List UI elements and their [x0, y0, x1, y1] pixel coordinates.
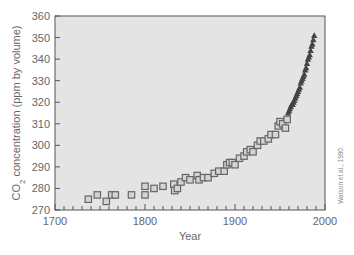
- square-marker: [174, 185, 180, 191]
- square-marker: [284, 116, 290, 122]
- source-credit: Watson et al., 1990.: [337, 146, 344, 204]
- y-tick-label: 320: [32, 96, 50, 108]
- x-axis-title: Year: [179, 230, 202, 242]
- square-marker: [128, 192, 134, 198]
- y-axis-title: CO2 concentration (ppm by volume): [10, 25, 27, 200]
- x-axis-tick-labels: 1700180019002000: [43, 215, 337, 227]
- y-tick-label: 340: [32, 53, 50, 65]
- square-marker: [221, 168, 227, 174]
- y-tick-label: 350: [32, 32, 50, 44]
- square-marker: [232, 162, 238, 168]
- y-tick-label: 330: [32, 75, 50, 87]
- y-tick-label: 360: [32, 10, 50, 22]
- y-tick-label: 280: [32, 182, 50, 194]
- square-marker: [282, 125, 288, 131]
- square-marker: [160, 183, 166, 189]
- co2-chart: 270280290300310320330340350360 170018001…: [0, 0, 354, 255]
- square-marker: [112, 192, 118, 198]
- square-marker: [103, 198, 109, 204]
- y-axis-title-post: concentration (ppm by volume): [10, 25, 22, 179]
- x-tick-label: 1900: [223, 215, 247, 227]
- y-tick-label: 290: [32, 161, 50, 173]
- x-tick-label: 1800: [133, 215, 157, 227]
- y-axis-title-pre: CO: [10, 184, 22, 201]
- square-marker: [187, 177, 193, 183]
- x-tick-label: 2000: [313, 215, 337, 227]
- square-marker: [85, 196, 91, 202]
- square-marker: [272, 131, 278, 137]
- square-marker: [205, 174, 211, 180]
- square-marker: [151, 185, 157, 191]
- square-marker: [142, 192, 148, 198]
- x-tick-label: 1700: [43, 215, 67, 227]
- y-tick-label: 310: [32, 118, 50, 130]
- y-tick-label: 300: [32, 139, 50, 151]
- y-axis-tick-labels: 270280290300310320330340350360: [32, 10, 50, 216]
- square-marker: [142, 183, 148, 189]
- square-marker: [250, 149, 256, 155]
- square-marker: [94, 192, 100, 198]
